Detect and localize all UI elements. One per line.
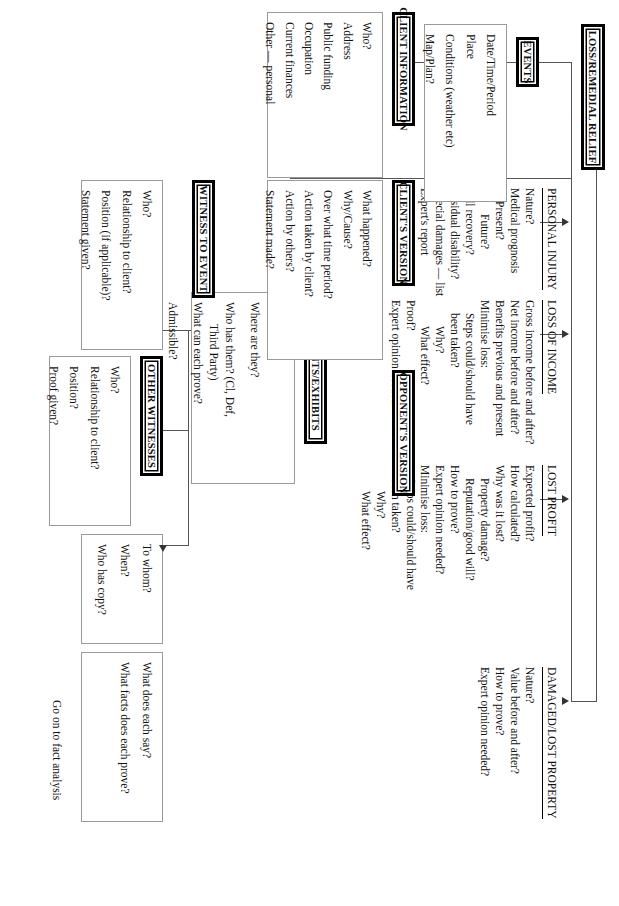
panel-item: Over what time period? xyxy=(320,190,336,350)
panel-item: Who? xyxy=(359,22,375,168)
panel-item: What facts does each prove? xyxy=(116,662,132,812)
heading-personal-injury: PERSONAL INJURY xyxy=(542,188,559,290)
header-clients-version[interactable]: CLIENT'S VERSION xyxy=(392,180,415,286)
panel-item: Address xyxy=(339,22,355,168)
items-damaged-lost-property: Nature?Value before and after?How to pro… xyxy=(477,667,537,819)
relief-item: Why? xyxy=(373,465,388,590)
panel-item: Action taken by client? xyxy=(301,190,317,350)
connector-events-drop xyxy=(542,178,572,179)
panel-client-information: Who?AddressPublic fundingOccupationCurre… xyxy=(267,12,383,178)
panel-item: Public funding xyxy=(320,22,336,168)
panel-witness-to-event: Who?Relationship to client?Position (if … xyxy=(81,180,163,350)
panel-item: Third Party) xyxy=(206,302,222,474)
panel-item: Action by others? xyxy=(281,190,297,350)
header-loss-remedial-relief[interactable]: LOSS/REMEDIAL RELIEF xyxy=(581,24,605,170)
header-opponents-version[interactable]: OPPONENT'S VERSION xyxy=(392,370,415,496)
panel-item: Conditions (weather etc) xyxy=(442,34,458,192)
group-lost-profit: LOST PROFIT Expected profit?How calculat… xyxy=(358,465,559,590)
panel-statement-detail: To whom?When?Who has copy? xyxy=(81,534,163,644)
relief-item: Expert's report xyxy=(418,188,433,296)
panel-item: Who? xyxy=(139,190,155,340)
panel-other-witnesses: Who?Relationship to client?Position?Proo… xyxy=(49,356,131,526)
relief-item: Value before and after? xyxy=(507,667,522,819)
relief-item: Medical prognosis xyxy=(507,188,522,296)
panel-item: Occupation xyxy=(301,22,317,168)
panel-item: Current finances xyxy=(281,22,297,168)
panel-item: Position (if applicable)? xyxy=(98,190,114,340)
items-lost-profit: Expected profit?How calculated?Why was i… xyxy=(358,465,537,590)
rotated-page: LOSS/REMEDIAL RELIEF PERSONAL INJURY Nat… xyxy=(0,0,619,906)
panel-item: Who has them? (Cl, Def, xyxy=(222,302,238,474)
relief-item: How calculated? xyxy=(507,465,522,590)
relief-item: Gross income before and after? xyxy=(522,300,537,444)
panel-item: Relationship to client? xyxy=(118,190,134,340)
panel-item: What does each say? xyxy=(139,662,155,812)
relief-item: Residual disability? xyxy=(447,188,462,296)
panel-events: Date/Time/PeriodPlaceConditions (weather… xyxy=(424,24,507,202)
relief-item: Minimise loss: xyxy=(418,465,433,590)
relief-item: What effect? xyxy=(418,300,433,444)
panel-item: Admissible? xyxy=(165,302,181,474)
relief-item: Expert opinion needed? xyxy=(477,667,492,819)
connector-client-info-drop xyxy=(542,62,572,63)
relief-item: What effect? xyxy=(358,465,373,590)
panel-item: Place xyxy=(462,34,478,192)
connector-relief-bus xyxy=(596,150,597,702)
relief-item: Steps could/should have xyxy=(462,300,477,444)
relief-item: Minimise loss: xyxy=(477,300,492,444)
relief-item: Special damages — list xyxy=(433,188,448,296)
relief-item: How to prove? xyxy=(492,667,507,819)
panel-item: Date/Time/Period xyxy=(483,34,499,192)
header-client-information[interactable]: CLIENT INFORMATION xyxy=(392,12,415,126)
relief-item: Reputation/good will? xyxy=(462,465,477,590)
connector-main-spine xyxy=(571,62,572,702)
panel-item: Who has copy? xyxy=(94,544,110,634)
header-other-witnesses[interactable]: OTHER WITNESSES xyxy=(140,356,163,476)
arrow-to-loss-of-income xyxy=(562,330,569,338)
arrow-to-statement-detail xyxy=(159,545,167,552)
relief-item: Full recovery? xyxy=(462,188,477,296)
arrow-to-lost-profit xyxy=(562,495,569,503)
heading-loss-of-income: LOSS OF INCOME xyxy=(542,300,559,394)
group-damaged-lost-property: DAMAGED/LOST PROPERTY Nature?Value befor… xyxy=(477,667,559,819)
relief-item: Future? xyxy=(477,188,492,296)
relief-item: Why? xyxy=(433,300,448,444)
panel-item: Why/Cause? xyxy=(339,190,355,350)
panel-item: To whom? xyxy=(139,544,155,634)
relief-item: Property damage? xyxy=(477,465,492,590)
header-events[interactable]: EVENTS xyxy=(516,37,539,87)
heading-lost-profit: LOST PROFIT xyxy=(542,465,559,536)
panel-item: What can each prove? xyxy=(189,302,205,474)
panel-item: Statement made? xyxy=(262,190,278,350)
relief-item: Nature? xyxy=(522,667,537,819)
relief-item: been taken? xyxy=(447,300,462,444)
panel-item: Who? xyxy=(107,366,123,516)
relief-item: Why was it lost? xyxy=(492,465,507,590)
relief-item: Present? xyxy=(492,188,507,296)
heading-damaged-lost-property: DAMAGED/LOST PROPERTY xyxy=(542,667,559,819)
relief-item: How to prove? xyxy=(447,465,462,590)
panel-item: When? xyxy=(116,544,132,634)
relief-item: Net income before and after? xyxy=(507,300,522,444)
header-witness-to-event[interactable]: WITNESS TO EVENT xyxy=(192,180,215,298)
panel-clients-version: What happened?Why/Cause?Over what time p… xyxy=(267,180,383,360)
group-personal-injury: PERSONAL INJURY Nature?Medical prognosis… xyxy=(418,188,559,296)
panel-item: Statement given? xyxy=(78,190,94,340)
relief-item: Benefits previous and present xyxy=(492,300,507,444)
panel-item: What happened? xyxy=(359,190,375,350)
panel-item: Map/Plan? xyxy=(422,34,438,192)
panel-evidence-value: What does each say?What facts does each … xyxy=(81,652,163,822)
panel-item: Relationship to client? xyxy=(86,366,102,516)
panel-item: Proof given? xyxy=(46,366,62,516)
relief-item: Expert opinion needed? xyxy=(433,465,448,590)
diagram-canvas: LOSS/REMEDIAL RELIEF PERSONAL INJURY Nat… xyxy=(0,0,619,906)
arrow-to-damaged-lost-property xyxy=(562,697,569,705)
connector-relief-riser xyxy=(572,701,597,702)
relief-item: Nature? xyxy=(522,188,537,296)
panel-item: Other — personal xyxy=(262,22,278,168)
relief-item: Expected profit? xyxy=(522,465,537,590)
panel-item: Position? xyxy=(66,366,82,516)
items-personal-injury: Nature?Medical prognosisPresent?Future?F… xyxy=(418,188,538,296)
footer-note: Go on to fact analysis xyxy=(51,700,63,800)
arrow-to-personal-injury xyxy=(562,218,569,226)
